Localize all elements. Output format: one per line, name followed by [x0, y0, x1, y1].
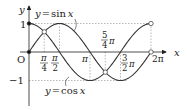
- svg-text:2: 2: [122, 63, 127, 73]
- origin-label: O: [17, 54, 25, 65]
- y-tick-1: 1: [20, 19, 26, 30]
- svg-text:π: π: [51, 53, 58, 63]
- x-tick-3pi-2: 3 2 π: [121, 53, 135, 73]
- svg-text:4: 4: [42, 63, 47, 73]
- cos-label: y=cosx: [44, 77, 86, 96]
- intersection-point: [103, 70, 107, 74]
- x-tick-pi-2: π 2: [51, 53, 59, 73]
- x-tick-2pi: 2π: [152, 54, 164, 64]
- svg-text:y=cosx: y=cosx: [44, 85, 86, 96]
- filled-endpoint: [27, 50, 31, 54]
- svg-text:3: 3: [122, 53, 127, 63]
- intersection-point: [42, 30, 46, 34]
- svg-text:π: π: [128, 59, 135, 69]
- x-axis-label: x: [174, 47, 180, 58]
- x-tick-pi: π: [81, 54, 89, 64]
- svg-text:π: π: [108, 36, 115, 46]
- open-endpoint: [149, 21, 153, 25]
- x-tick-5pi-4: 5 4 π: [101, 30, 115, 50]
- svg-text:y=sinx: y=sinx: [34, 8, 74, 19]
- trig-graph: y x O 1 −1 y=sinx y=cosx π 4 π 2 π 5 4 π…: [0, 0, 188, 110]
- x-tick-pi-4: π 4: [40, 53, 48, 73]
- svg-text:2π: 2π: [152, 54, 164, 64]
- svg-text:π: π: [81, 54, 89, 64]
- filled-endpoint: [27, 22, 31, 26]
- y-tick-neg1: −1: [9, 75, 24, 86]
- y-axis-label: y: [18, 4, 25, 15]
- svg-text:π: π: [40, 53, 47, 63]
- svg-text:5: 5: [102, 30, 107, 40]
- svg-text:4: 4: [102, 40, 107, 50]
- svg-text:2: 2: [53, 63, 58, 73]
